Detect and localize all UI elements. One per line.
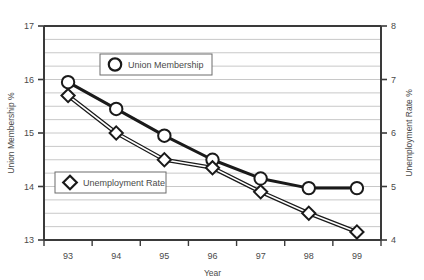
- x-axis-tick-label: 96: [207, 251, 217, 261]
- left-axis-tick-label: 17: [24, 21, 34, 31]
- left-axis-tick-label: 16: [24, 75, 34, 85]
- x-axis-tick-label: 95: [159, 251, 169, 261]
- data-point-circle: [303, 182, 315, 194]
- chart-container: 1314151617Union Membership %45678Unemplo…: [0, 0, 424, 280]
- left-axis-tick-label: 14: [24, 182, 34, 192]
- data-point-circle: [254, 172, 266, 184]
- dual-axis-line-chart: 1314151617Union Membership %45678Unemplo…: [0, 0, 424, 280]
- data-point-diamond: [350, 225, 363, 238]
- legend-union-membership[interactable]: Union Membership: [100, 54, 212, 75]
- x-axis-tick-label: 94: [111, 251, 121, 261]
- data-point-circle: [62, 76, 74, 88]
- left-axis: 1314151617Union Membership %: [6, 21, 44, 245]
- right-axis-tick-label: 4: [391, 235, 396, 245]
- data-point-circle: [110, 103, 122, 115]
- right-axis-tick-label: 6: [391, 128, 396, 138]
- legend-unemployment-rate[interactable]: Unemployment Rate: [55, 172, 166, 193]
- x-axis: 93949596979899Year: [44, 240, 381, 278]
- left-axis-title: Union Membership %: [6, 92, 16, 174]
- series-unemployment-rate: [61, 89, 363, 239]
- x-axis-tick-label: 99: [352, 251, 362, 261]
- data-point-diamond: [302, 207, 315, 220]
- right-axis-title: Unemployment Rate %: [404, 89, 414, 177]
- legend-label: Unemployment Rate: [83, 178, 165, 188]
- x-axis-tick-label: 98: [304, 251, 314, 261]
- right-axis-tick-label: 7: [391, 75, 396, 85]
- left-axis-tick-label: 15: [24, 128, 34, 138]
- data-point-circle: [158, 129, 170, 141]
- data-point-circle: [351, 182, 363, 194]
- x-axis-title: Year: [204, 268, 221, 278]
- x-axis-tick-label: 93: [63, 251, 73, 261]
- right-axis-tick-label: 8: [391, 21, 396, 31]
- x-axis-tick-label: 97: [256, 251, 266, 261]
- circle-icon: [109, 58, 121, 70]
- legend-label: Union Membership: [128, 60, 204, 70]
- left-axis-tick-label: 13: [24, 235, 34, 245]
- right-axis: 45678Unemployment Rate %: [381, 21, 414, 245]
- right-axis-tick-label: 5: [391, 182, 396, 192]
